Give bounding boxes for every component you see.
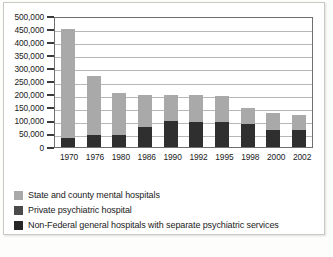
y-axis-tick-mark [47, 42, 54, 44]
x-axis-tick-label: 1992 [189, 152, 203, 162]
y-axis-tick-mark [47, 55, 54, 57]
legend-label: Private psychiatric hospital [28, 205, 132, 215]
bar-segment [87, 135, 101, 147]
bar-segment [112, 93, 126, 135]
bar-column [61, 18, 75, 147]
bar-segment [189, 95, 203, 122]
scanned-page: 500,000450,000400,000350,000300,000250,0… [0, 0, 333, 257]
bar-segment [138, 127, 152, 147]
y-axis-tick-mark [47, 16, 54, 18]
y-axis-tick: 150,000 [14, 103, 54, 114]
y-axis-tick-label: 400,000 [14, 38, 47, 48]
y-axis-tick: 400,000 [14, 38, 54, 49]
y-axis-tick-mark [47, 121, 54, 123]
bar-segment [241, 124, 255, 147]
y-axis-tick: 300,000 [14, 64, 54, 75]
bar-segment [138, 95, 152, 127]
legend-item: Private psychiatric hospital [14, 203, 314, 217]
y-axis-tick-label: 0 [39, 143, 47, 153]
y-axis-tick: 350,000 [14, 51, 54, 62]
legend-label: State and county mental hospitals [28, 190, 160, 200]
bar-column [164, 18, 178, 147]
bar-column [189, 18, 203, 147]
bar-column [112, 18, 126, 147]
bar-segment [112, 135, 126, 147]
bar-column [266, 18, 280, 147]
bar-segment [292, 130, 306, 147]
bar-column [241, 18, 255, 147]
x-axis-tick-label: 2000 [267, 152, 281, 162]
bar-column [292, 18, 306, 147]
y-axis-tick: 450,000 [14, 25, 54, 36]
y-axis-tick-label: 200,000 [14, 90, 47, 100]
legend-label: Non-Federal general hospitals with separ… [28, 220, 279, 230]
bar-segment [215, 96, 229, 122]
bar-column [138, 18, 152, 147]
legend-item: State and county mental hospitals [14, 188, 314, 202]
x-axis-tick-label: 1980 [112, 152, 126, 162]
bar-segment [189, 122, 203, 147]
y-axis-tick-mark [47, 134, 54, 136]
bar-column [215, 18, 229, 147]
bar-column [87, 18, 101, 147]
bar-group [55, 18, 312, 147]
bar-segment [61, 29, 75, 138]
y-axis-tick-mark [47, 107, 54, 109]
x-axis-tick-label: 1990 [164, 152, 178, 162]
y-axis-tick-label: 500,000 [14, 12, 47, 22]
y-axis-tick-label: 50,000 [19, 129, 47, 139]
x-axis-tick-label: 1998 [241, 152, 255, 162]
y-axis-tick-label: 350,000 [14, 51, 47, 61]
legend-swatch [14, 191, 23, 200]
bar-segment [241, 108, 255, 125]
bar-segment [87, 76, 101, 135]
y-axis-tick-mark [47, 147, 54, 149]
y-axis-tick-label: 150,000 [14, 103, 47, 113]
y-axis-tick: 200,000 [14, 90, 54, 101]
y-axis-tick-label: 100,000 [14, 116, 47, 126]
x-axis-tick-label: 2002 [293, 152, 307, 162]
y-axis-tick-mark [47, 81, 54, 83]
legend-swatch [14, 206, 23, 215]
x-axis-tick-label: 1986 [138, 152, 152, 162]
x-axis-tick-label: 1970 [60, 152, 74, 162]
bar-segment [292, 115, 306, 130]
bar-segment [266, 130, 280, 147]
legend-swatch [14, 221, 23, 230]
bar-segment [215, 122, 229, 147]
y-axis-tick: 250,000 [14, 77, 54, 88]
y-axis: 500,000450,000400,000350,000300,000250,0… [0, 0, 54, 150]
y-axis-tick: 500,000 [14, 12, 54, 23]
y-axis-tick: 50,000 [19, 129, 54, 140]
x-axis-tick-label: 1995 [215, 152, 229, 162]
y-axis-tick-mark [47, 94, 54, 96]
y-axis-tick: 100,000 [14, 116, 54, 127]
bar-segment [164, 95, 178, 121]
y-axis-tick-label: 250,000 [14, 77, 47, 87]
bar-segment [164, 121, 178, 147]
legend-item: Non-Federal general hospitals with separ… [14, 218, 314, 232]
bar-segment [266, 113, 280, 130]
y-axis-tick-label: 450,000 [14, 25, 47, 35]
y-axis-tick: 0 [39, 143, 54, 154]
y-axis-tick-mark [47, 29, 54, 31]
chart-legend: State and county mental hospitalsPrivate… [14, 188, 314, 233]
plot-area [54, 17, 313, 148]
x-axis: 1970197619801986199019921995199820002002 [54, 152, 313, 166]
bar-segment [61, 138, 75, 147]
y-axis-tick-label: 300,000 [14, 64, 47, 74]
x-axis-tick-label: 1976 [86, 152, 100, 162]
y-axis-tick-mark [47, 68, 54, 70]
